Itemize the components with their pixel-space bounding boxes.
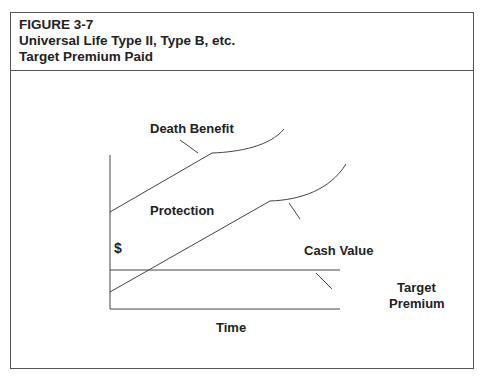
death-benefit-line	[110, 129, 284, 212]
target-premium-label-2: Premium	[389, 296, 445, 311]
target-premium-label-1: Target	[397, 280, 436, 295]
death-benefit-leader	[180, 140, 198, 153]
target-premium-leader	[316, 273, 332, 289]
cash-value-label: Cash Value	[304, 243, 373, 258]
death-benefit-label: Death Benefit	[150, 121, 234, 136]
cash-value-line	[110, 164, 346, 292]
y-axis-label: $	[114, 240, 122, 256]
cash-value-leader	[289, 203, 300, 219]
x-axis-label: Time	[216, 320, 246, 335]
protection-label: Protection	[150, 203, 214, 218]
